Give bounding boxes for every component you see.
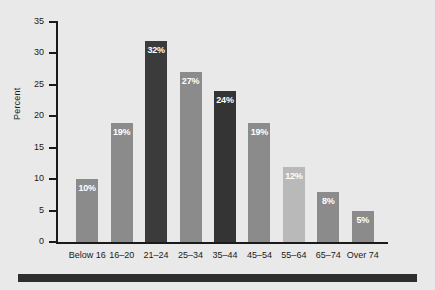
- plot-area: 05101520253035 10%19%32%27%24%19%12%8%5%…: [56, 22, 388, 244]
- y-axis-tick-label: 20: [34, 108, 44, 122]
- bar[interactable]: 19%: [248, 123, 270, 242]
- bar-value-label: 10%: [79, 183, 96, 193]
- y-axis-tick-label: 0: [39, 234, 44, 248]
- bar-value-label: 5%: [356, 215, 369, 225]
- y-axis-tick-label: 35: [34, 14, 44, 28]
- bar-value-label: 12%: [285, 171, 302, 181]
- y-axis-tick: 15: [49, 147, 58, 149]
- bar-value-label: 27%: [182, 76, 199, 86]
- y-axis-tick-label: 5: [39, 203, 44, 217]
- bar-slot: 24%: [208, 91, 242, 242]
- y-axis-tick: 10: [49, 178, 58, 180]
- x-axis-line: [56, 242, 388, 244]
- y-axis-tick-label: 10: [34, 171, 44, 185]
- bar-value-label: 32%: [147, 45, 164, 55]
- bar-slot: 12%: [277, 167, 311, 242]
- x-axis-tick-label: 25–34: [178, 250, 203, 260]
- x-axis-tick-label: 16–20: [109, 250, 134, 260]
- y-axis-title: Percent: [12, 88, 22, 120]
- y-axis-tick: 25: [49, 84, 58, 86]
- x-axis-tick-label: 35–44: [212, 250, 237, 260]
- x-axis-tick-label: Over 74: [347, 250, 379, 260]
- bar-slot: 19%: [104, 123, 138, 242]
- bar[interactable]: 5%: [352, 211, 374, 242]
- x-axis-tick-label: 55–64: [281, 250, 306, 260]
- bar-value-label: 8%: [322, 196, 335, 206]
- chart-figure: Percent 05101520253035 10%19%32%27%24%19…: [0, 0, 435, 290]
- bar-slot: 27%: [173, 72, 207, 242]
- bar[interactable]: 24%: [214, 91, 236, 242]
- bar-value-label: 24%: [216, 95, 233, 105]
- bar-slot: 32%: [139, 41, 173, 242]
- bar-value-label: 19%: [251, 127, 268, 137]
- bar[interactable]: 12%: [283, 167, 305, 242]
- bottom-rule: [18, 274, 417, 282]
- y-axis-tick-label: 25: [34, 77, 44, 91]
- x-axis-tick-label: 21–24: [144, 250, 169, 260]
- bar[interactable]: 19%: [111, 123, 133, 242]
- x-axis-tick-label: 65–74: [316, 250, 341, 260]
- bar[interactable]: 10%: [76, 179, 98, 242]
- x-axis-tick-label: Below 16: [69, 250, 106, 260]
- y-axis-tick-label: 15: [34, 140, 44, 154]
- bar-slot: 10%: [70, 179, 104, 242]
- bar-slot: 5%: [346, 211, 380, 242]
- x-axis-tick-label: 45–54: [247, 250, 272, 260]
- y-axis-tick: 20: [49, 115, 58, 117]
- bar-value-label: 19%: [113, 127, 130, 137]
- bar[interactable]: 8%: [317, 192, 339, 242]
- y-axis-tick: 0: [49, 241, 58, 243]
- y-axis-tick: 35: [49, 21, 58, 23]
- bar[interactable]: 32%: [145, 41, 167, 242]
- y-axis-tick-label: 30: [34, 45, 44, 59]
- y-axis-tick: 30: [49, 52, 58, 54]
- bar-slot: 19%: [242, 123, 276, 242]
- bar[interactable]: 27%: [180, 72, 202, 242]
- y-axis-tick: 5: [49, 210, 58, 212]
- bar-slot: 8%: [311, 192, 345, 242]
